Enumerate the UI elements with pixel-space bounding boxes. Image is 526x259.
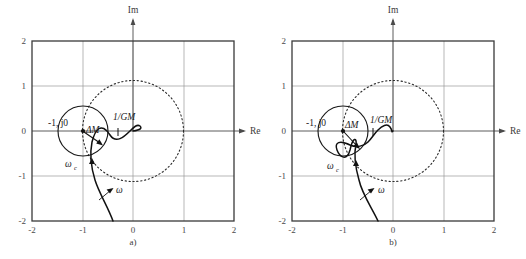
- svg-text:c: c: [336, 166, 339, 173]
- panel-a-ytick-m1: -1: [19, 171, 27, 181]
- panel-a-xtick-m1: -1: [79, 225, 87, 235]
- panel-a-imag-axis-arrow: [131, 18, 136, 25]
- panel-a-ytick-m2: -2: [19, 216, 27, 226]
- panel-b-ytick-1: 1: [282, 81, 287, 91]
- figure-container: 2 1 0 -1 -2 -2 -1 0 1 2 Im Re -1, j0 ΔM …: [0, 0, 526, 259]
- panel-b-ytick-2: 2: [282, 36, 287, 46]
- panel-b-omega-c-label: ω c: [327, 161, 339, 173]
- panel-a-ytick-2: 2: [22, 36, 27, 46]
- panel-a-xtick-0: 0: [131, 225, 136, 235]
- panel-a-omega-label: ω: [116, 185, 123, 195]
- panel-b-real-axis-label: Re: [510, 126, 521, 136]
- panel-a-caption: a): [130, 237, 137, 247]
- panel-b-xtick-1: 1: [442, 225, 447, 235]
- panel-b-xtick-m2: -2: [288, 225, 296, 235]
- panel-a-ytick-1: 1: [22, 81, 27, 91]
- panel-b-ytick-0: 0: [282, 126, 287, 136]
- panel-a-omega-c-label: ω c: [65, 159, 77, 171]
- panel-b-delta-m-label: ΔM: [344, 120, 360, 130]
- panel-b-xtick-m1: -1: [339, 225, 347, 235]
- nyquist-figure: 2 1 0 -1 -2 -2 -1 0 1 2 Im Re -1, j0 ΔM …: [0, 0, 526, 259]
- panel-a-xtick-2: 2: [232, 225, 237, 235]
- panel-b-ytick-m1: -1: [279, 171, 287, 181]
- panel-a-ytick-0: 0: [22, 126, 27, 136]
- panel-b-critical-point-label: -1, j0: [306, 118, 326, 128]
- panel-a-real-axis-arrow: [239, 129, 246, 134]
- panel-b-gain-crossover-marker: [353, 160, 359, 166]
- panel-b-imag-axis-arrow: [391, 18, 396, 25]
- panel-b-xtick-0: 0: [391, 225, 396, 235]
- panel-b: 2 1 0 -1 -2 -2 -1 0 1 2 Im Re -1, j0 ΔM …: [279, 5, 521, 247]
- svg-text:ω: ω: [65, 159, 72, 169]
- panel-a-xtick-1: 1: [182, 225, 187, 235]
- panel-a-inv-gm-label: 1/GM: [113, 112, 136, 122]
- panel-a: 2 1 0 -1 -2 -2 -1 0 1 2 Im Re -1, j0 ΔM …: [19, 5, 261, 247]
- panel-b-imag-axis-label: Im: [388, 5, 399, 15]
- panel-a-delta-m-label: ΔM: [85, 125, 101, 135]
- panel-a-imag-axis-label: Im: [128, 5, 139, 15]
- svg-text:ω: ω: [327, 161, 334, 171]
- panel-a-gain-crossover-marker: [89, 158, 95, 164]
- panel-b-caption: b): [389, 237, 397, 247]
- panel-a-xtick-m2: -2: [28, 225, 36, 235]
- panel-b-real-axis-arrow: [499, 129, 506, 134]
- panel-b-ytick-m2: -2: [279, 216, 287, 226]
- panel-a-real-axis-label: Re: [250, 126, 261, 136]
- panel-b-inv-gm-label: 1/GM: [370, 115, 393, 125]
- panel-b-xtick-2: 2: [492, 225, 497, 235]
- panel-a-nyquist-curve: [91, 125, 141, 221]
- panel-a-critical-point-label: -1, j0: [48, 118, 68, 128]
- svg-text:c: c: [74, 164, 77, 171]
- panel-b-omega-label: ω: [378, 185, 385, 195]
